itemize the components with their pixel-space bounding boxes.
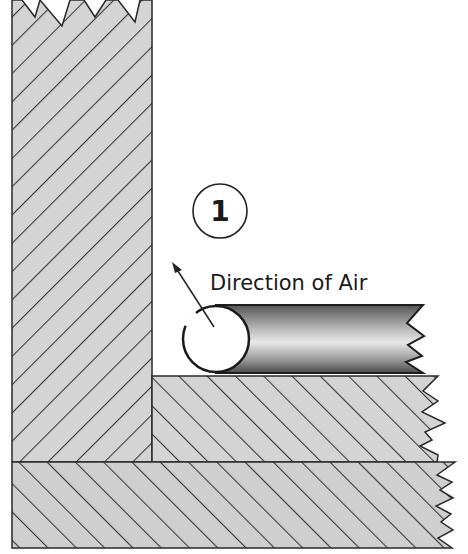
direction-of-air-label: Direction of Air	[210, 271, 368, 295]
horizontal-board	[152, 376, 445, 462]
vertical-board	[12, 0, 152, 462]
joint-diagram: 1 Direction of Air	[0, 0, 468, 554]
step-number: 1	[210, 195, 229, 228]
base-board	[12, 462, 455, 548]
